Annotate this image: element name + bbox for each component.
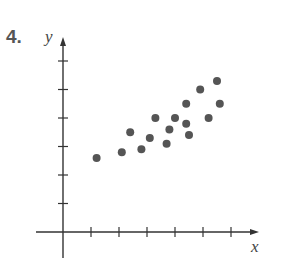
x-axis-label: x bbox=[250, 237, 259, 256]
data-point bbox=[137, 145, 145, 153]
axes bbox=[36, 37, 259, 258]
data-point bbox=[196, 86, 204, 94]
scatter-plot: x y bbox=[0, 0, 281, 266]
data-point bbox=[213, 77, 221, 85]
data-point bbox=[146, 134, 154, 142]
data-point bbox=[93, 154, 101, 162]
data-point bbox=[165, 125, 173, 133]
data-points bbox=[93, 77, 224, 162]
data-point bbox=[118, 148, 126, 156]
data-point bbox=[171, 114, 179, 122]
data-point bbox=[182, 120, 190, 128]
y-axis-label: y bbox=[43, 27, 53, 46]
data-point bbox=[216, 100, 224, 108]
data-point bbox=[182, 100, 190, 108]
data-point bbox=[151, 114, 159, 122]
data-point bbox=[185, 131, 193, 139]
x-axis-arrow-icon bbox=[250, 229, 259, 235]
y-axis-arrow-icon bbox=[60, 37, 66, 46]
data-point bbox=[163, 140, 171, 148]
data-point bbox=[205, 114, 213, 122]
data-point bbox=[126, 128, 134, 136]
